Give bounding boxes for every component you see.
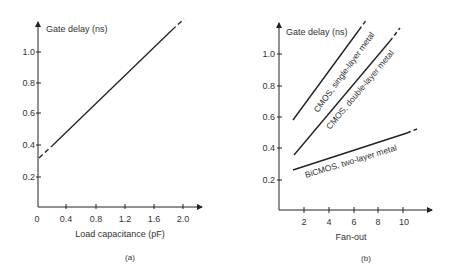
svg-text:10: 10 <box>399 217 409 227</box>
svg-text:0.8: 0.8 <box>22 78 35 88</box>
y-tick-labels-a: 1.0 0.8 0.6 0.4 0.2 <box>22 47 35 182</box>
svg-text:6: 6 <box>351 217 356 227</box>
svg-text:0.4: 0.4 <box>22 140 35 150</box>
y-axis-label-a: Gate delay (ns) <box>46 24 108 34</box>
x-tick-labels-b: 2 4 6 8 10 <box>301 217 409 227</box>
svg-text:1.0: 1.0 <box>22 47 35 57</box>
svg-text:0.8: 0.8 <box>90 214 103 224</box>
svg-text:2: 2 <box>301 217 306 227</box>
svg-text:8: 8 <box>375 217 380 227</box>
svg-text:0.2: 0.2 <box>22 172 35 182</box>
series-bicmos: BiCMOS, two-layer metal <box>293 129 417 180</box>
figure: 1.0 0.8 0.6 0.4 0.2 0 0.4 0.8 1.2 1.6 2.… <box>0 0 450 272</box>
svg-text:1.0: 1.0 <box>262 49 275 59</box>
y-axis-label-b: Gate delay (ns) <box>286 27 348 37</box>
x-tick-labels-a: 0 0.4 0.8 1.2 1.6 2.0 <box>34 214 189 224</box>
svg-text:0.2: 0.2 <box>262 175 275 185</box>
svg-text:0.4: 0.4 <box>60 214 73 224</box>
chart-a: 1.0 0.8 0.6 0.4 0.2 0 0.4 0.8 1.2 1.6 2.… <box>22 19 202 262</box>
caption-b: (b) <box>361 254 371 263</box>
series-a-dashed-end <box>172 19 184 30</box>
svg-text:1.2: 1.2 <box>119 214 132 224</box>
svg-text:4: 4 <box>326 217 331 227</box>
svg-text:1.6: 1.6 <box>148 214 161 224</box>
label-bicmos: BiCMOS, two-layer metal <box>304 142 398 179</box>
svg-text:2.0: 2.0 <box>177 214 190 224</box>
svg-text:0.6: 0.6 <box>22 108 35 118</box>
chart-b: 1.0 0.8 0.6 0.4 0.2 2 4 6 8 10 Gate dela… <box>262 19 432 263</box>
x-axis-label-a: Load capacitance (pF) <box>75 229 165 239</box>
series-a-dashed-start <box>39 145 53 158</box>
svg-text:0.6: 0.6 <box>262 112 275 122</box>
series-a-line <box>53 30 172 145</box>
x-axis-label-b: Fan-out <box>335 232 367 242</box>
svg-text:0.4: 0.4 <box>262 143 275 153</box>
svg-text:0: 0 <box>34 214 39 224</box>
y-tick-labels-b: 1.0 0.8 0.6 0.4 0.2 <box>262 49 275 185</box>
caption-a: (a) <box>125 253 135 262</box>
svg-text:0.8: 0.8 <box>262 81 275 91</box>
